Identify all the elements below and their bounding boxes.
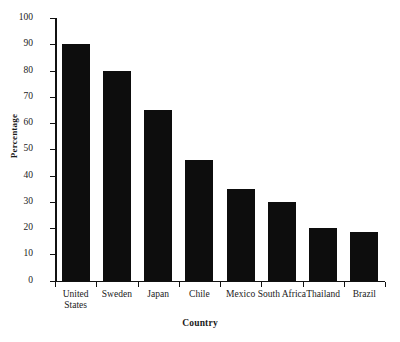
bar <box>62 44 90 280</box>
y-tick-label: 80 <box>5 66 33 76</box>
y-axis-title: Percentage <box>9 91 19 181</box>
bar <box>227 189 255 281</box>
x-tick <box>344 282 345 287</box>
bar <box>144 110 172 281</box>
x-tick <box>96 282 97 287</box>
y-tick-label: 100 <box>5 13 33 23</box>
y-tick-label: 30 <box>5 197 33 207</box>
y-tick <box>50 123 55 124</box>
y-tick <box>50 228 55 229</box>
x-tick <box>179 282 180 287</box>
y-tick-label: 90 <box>5 39 33 49</box>
y-tick-label: 10 <box>5 249 33 259</box>
x-tick <box>385 282 386 287</box>
bar <box>309 228 337 281</box>
y-tick-label: 70 <box>5 92 33 102</box>
x-axis-title: Country <box>0 318 400 328</box>
y-axis-line <box>55 18 57 282</box>
y-tick <box>50 202 55 203</box>
chart-title <box>0 0 400 2</box>
y-tick-label: 20 <box>5 223 33 233</box>
x-tick <box>220 282 221 287</box>
x-tick <box>261 282 262 287</box>
y-tick-label: 60 <box>5 118 33 128</box>
x-tick <box>303 282 304 287</box>
y-tick <box>50 149 55 150</box>
y-tick <box>50 176 55 177</box>
x-tick <box>55 282 56 287</box>
y-tick <box>50 44 55 45</box>
x-tick-label: Brazil <box>340 289 389 300</box>
x-tick <box>138 282 139 287</box>
bar <box>350 232 378 281</box>
y-tick-label: 0 <box>5 276 33 286</box>
bar <box>185 160 213 281</box>
y-tick <box>50 97 55 98</box>
y-tick <box>50 71 55 72</box>
y-tick <box>50 18 55 19</box>
y-tick-label: 40 <box>5 171 33 181</box>
bar-chart-figure: Percentage 0102030405060708090100 United… <box>0 0 400 342</box>
plot-area: 0102030405060708090100 <box>55 18 385 282</box>
bar <box>103 71 131 281</box>
y-tick <box>50 254 55 255</box>
y-tick-label: 50 <box>5 144 33 154</box>
bar <box>268 202 296 281</box>
